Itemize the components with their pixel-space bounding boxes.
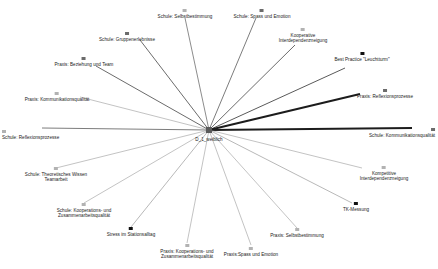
center-node-marker[interactable] (206, 127, 212, 133)
edge-to-schule-selbstbestimmung (185, 18, 209, 130)
graph-node-praxis-beziehung-und-team[interactable]: Praxis: Beziehung und Team (55, 57, 114, 67)
edge-to-praxis-selbstbestimmung (209, 130, 297, 228)
edge-to-schule-kooperations-zusammenarbeit (84, 130, 209, 203)
node-marker-icon (125, 32, 129, 35)
graph-node-praxis-spass-und-emotion[interactable]: Praxis:Spass und Emotion (224, 247, 278, 257)
graph-node-tk-messung[interactable]: TK-Messung (343, 202, 369, 212)
node-label: Praxis: Beziehung und Team (55, 62, 114, 67)
edge-to-best-practice-leuchtturm (209, 68, 345, 130)
edge-to-kompetitive-interdependenzneigung (209, 130, 362, 168)
node-label: Kooperative Interdependenzneigung (279, 33, 328, 44)
graph-node-kompetitive-interdependenzneigung[interactable]: Kompetitive Interdependenzneigung (360, 166, 409, 181)
node-marker-icon (382, 166, 386, 169)
node-marker-icon (295, 228, 299, 231)
node-label: Praxis: Kooperations- und Zusammenarbeit… (160, 249, 213, 260)
node-marker-icon (260, 9, 264, 12)
node-label: Kompetitive Interdependenzneigung (360, 171, 409, 182)
node-marker-icon (360, 52, 364, 55)
edge-to-praxis-spass-und-emotion (209, 130, 251, 245)
graph-node-schule-theoretisches-wissen[interactable]: Schule: Theoretisches Wissen Teamarbeit (25, 167, 87, 182)
node-label: Stress im Stationsalltag (107, 232, 155, 237)
edge-to-schule-spass-und-emotion (209, 18, 256, 130)
node-label: TK-Messung (343, 207, 369, 212)
node-marker-icon (354, 202, 358, 205)
graph-node-stress-im-stationsalltag[interactable]: Stress im Stationsalltag (107, 227, 155, 237)
graph-node-schule-gruppenerlebnisse[interactable]: Schule: Gruppenerlebnisse (99, 32, 155, 42)
node-label: Schule: Kooperations- und Zusammenarbeit… (57, 208, 112, 219)
node-marker-icon (82, 203, 86, 206)
node-marker-icon (129, 227, 133, 230)
edge-to-schule-reflexionsprozesse (42, 128, 209, 130)
node-label: Praxis: Selbstbestimmung (270, 233, 324, 238)
edge-to-schule-gruppenerlebnisse (140, 40, 209, 130)
node-label: Schule: Reflexionsprozesse (2, 135, 59, 140)
node-marker-icon (55, 92, 59, 95)
node-marker-icon (183, 9, 187, 12)
graph-node-praxis-kommunikationsqualitaet[interactable]: Praxis: Kommunikationsqualität (25, 92, 90, 102)
graph-node-kooperative-interdependenzneigung[interactable]: Kooperative Interdependenzneigung (279, 28, 328, 43)
node-label: Praxis: Reflexionsprozesse (357, 94, 413, 99)
edge-to-praxis-reflexionsprozesse (209, 94, 360, 130)
network-diagram-canvas: Schule: SelbstbestimmungSchule: Spass un… (0, 0, 438, 269)
edge-to-praxis-kommunikationsqualitaet (80, 97, 209, 130)
graph-node-schule-spass-und-emotion[interactable]: Schule: Spass und Emotion (234, 9, 291, 19)
graph-node-praxis-kooperations-zusammenarbeit[interactable]: Praxis: Kooperations- und Zusammenarbeit… (160, 244, 213, 259)
edge-to-praxis-beziehung-und-team (96, 66, 209, 130)
edge-to-stress-im-stationsalltag (131, 130, 209, 227)
node-marker-icon (431, 128, 435, 131)
center-node-label: D_1_weiblich (195, 137, 222, 142)
node-label: Best Practice "Leuchtturm" (334, 57, 389, 62)
node-label: Schule: Theoretisches Wissen Teamarbeit (25, 172, 87, 183)
node-label: Schule: Selbstbestimmung (158, 14, 213, 19)
node-marker-icon (383, 89, 387, 92)
graph-node-schule-selbstbestimmung[interactable]: Schule: Selbstbestimmung (158, 9, 213, 19)
node-label: Praxis:Spass und Emotion (224, 252, 278, 257)
edge-to-schule-theoretisches-wissen (56, 130, 209, 168)
graph-node-schule-kommunikationsqualitaet[interactable]: Schule: Kommunikationsqualität (369, 128, 435, 138)
node-marker-icon (2, 130, 6, 133)
node-label: Schule: Spass und Emotion (234, 14, 291, 19)
edge-to-praxis-kooperations-zusammenarbeit (187, 130, 209, 243)
graph-node-schule-kooperations-zusammenarbeit[interactable]: Schule: Kooperations- und Zusammenarbeit… (57, 203, 112, 218)
edge-to-kooperative-interdependenzneigung (209, 45, 295, 130)
node-marker-icon (185, 244, 189, 247)
graph-node-schule-reflexionsprozesse[interactable]: Schule: Reflexionsprozesse (2, 130, 59, 140)
graph-node-praxis-reflexionsprozesse[interactable]: Praxis: Reflexionsprozesse (357, 89, 413, 99)
node-label: Schule: Kommunikationsqualität (369, 133, 435, 138)
edge-to-tk-messung (209, 130, 352, 203)
node-marker-icon (54, 167, 58, 170)
node-marker-icon (82, 57, 86, 60)
node-marker-icon (301, 28, 305, 31)
node-label: Praxis: Kommunikationsqualität (25, 97, 90, 102)
graph-node-praxis-selbstbestimmung[interactable]: Praxis: Selbstbestimmung (270, 228, 324, 238)
graph-node-best-practice-leuchtturm[interactable]: Best Practice "Leuchtturm" (334, 52, 389, 62)
node-marker-icon (249, 247, 253, 250)
node-label: Schule: Gruppenerlebnisse (99, 37, 155, 42)
